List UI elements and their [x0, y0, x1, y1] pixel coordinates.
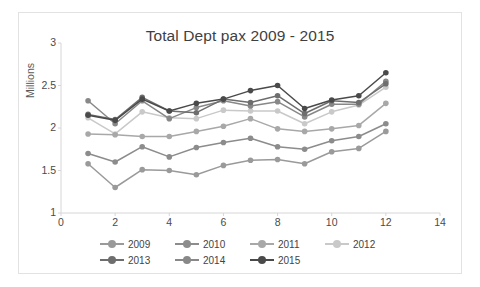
legend-item-2014[interactable]: 2014: [175, 255, 250, 266]
chart-container: Total Dept pax 2009 - 2015: [18, 12, 462, 274]
legend-label: 2015: [278, 255, 300, 266]
legend-marker-icon: [250, 255, 274, 265]
legend-item-2015[interactable]: 2015: [250, 255, 325, 266]
legend-marker-icon: [325, 239, 349, 249]
legend-item-2012[interactable]: 2012: [325, 239, 400, 250]
x-tick-label: 10: [320, 216, 344, 228]
legend-row: 201320142015: [100, 252, 400, 268]
legend-label: 2013: [128, 255, 150, 266]
y-tick-label: 1.5: [30, 164, 56, 176]
chart-title: Total Dept pax 2009 - 2015: [19, 27, 461, 45]
y-tick-label: 3: [30, 36, 56, 48]
legend-item-2013[interactable]: 2013: [100, 255, 175, 266]
legend-item-2009[interactable]: 2009: [100, 239, 175, 250]
legend-label: 2012: [353, 239, 375, 250]
x-tick-label: 0: [49, 216, 73, 228]
y-tick-label: 2: [30, 121, 56, 133]
legend-marker-icon: [100, 239, 124, 249]
x-tick-label: 14: [428, 216, 452, 228]
legend-label: 2009: [128, 239, 150, 250]
y-axis-ticks: 11.522.53: [28, 0, 56, 287]
x-tick-label: 8: [266, 216, 290, 228]
chart-legend: 2009201020112012201320142015: [100, 236, 400, 268]
legend-item-2010[interactable]: 2010: [175, 239, 250, 250]
legend-marker-icon: [250, 239, 274, 249]
x-tick-label: 2: [103, 216, 127, 228]
legend-label: 2014: [203, 255, 225, 266]
x-tick-label: 6: [211, 216, 235, 228]
legend-item-2011[interactable]: 2011: [250, 239, 325, 250]
legend-row: 2009201020112012: [100, 236, 400, 252]
legend-label: 2011: [278, 239, 300, 250]
legend-marker-icon: [175, 255, 199, 265]
y-tick-label: 2.5: [30, 79, 56, 91]
x-tick-label: 4: [157, 216, 181, 228]
legend-marker-icon: [175, 239, 199, 249]
legend-label: 2010: [203, 239, 225, 250]
x-tick-label: 12: [374, 216, 398, 228]
legend-marker-icon: [100, 255, 124, 265]
